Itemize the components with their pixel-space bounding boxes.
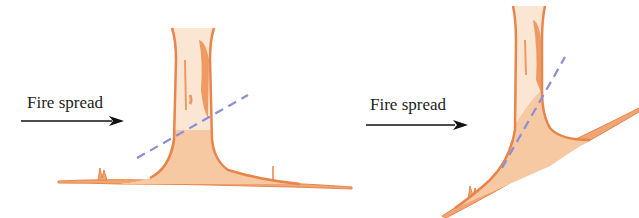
panel-flat-ground: Fire spread xyxy=(0,0,360,218)
fire-spread-arrow-icon xyxy=(21,116,124,126)
flat-ground-diagram xyxy=(0,0,360,218)
panel-slope-ground: Fire spread xyxy=(350,0,639,218)
slope-ground-diagram xyxy=(350,0,639,218)
fire-spread-arrow-icon xyxy=(366,120,468,130)
